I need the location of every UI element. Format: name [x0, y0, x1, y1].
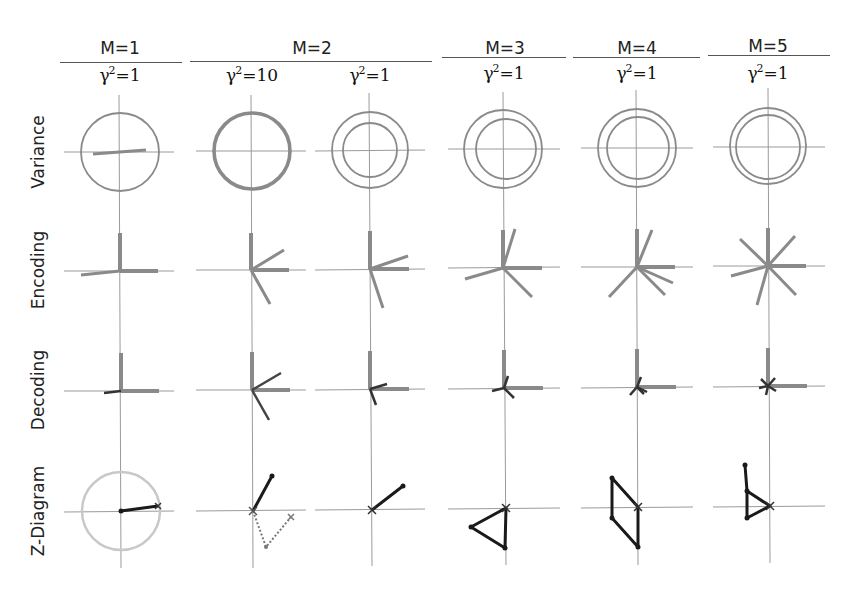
encoding-m3 — [465, 229, 542, 297]
decoding-m2-g10 — [252, 352, 290, 420]
decoding-m3 — [492, 350, 543, 398]
encoding-m2-g10 — [251, 233, 289, 304]
horizontal-axes — [64, 147, 825, 512]
decoding-row — [104, 348, 807, 420]
z-end-cross-icon — [288, 514, 294, 520]
z-diagram-m4 — [610, 476, 643, 550]
figure-grid: M=1 M=2 M=3 M=4 M=5 γ2=1 γ2=10 γ2=1 γ2=1… — [0, 0, 855, 592]
z-diagram-m3 — [469, 504, 511, 551]
encoding-m2-g1 — [370, 231, 409, 308]
decoding-m1 — [104, 353, 159, 393]
z-diagram-row — [82, 463, 774, 551]
decoding-m5 — [759, 348, 807, 395]
decoding-m2-g1 — [370, 351, 409, 405]
encoding-m4 — [609, 229, 675, 297]
z-diagram-m2-g10 — [249, 474, 294, 550]
diagram-canvas — [0, 0, 855, 592]
decoding-m4 — [630, 349, 676, 395]
encoding-m1 — [81, 233, 158, 275]
encoding-row — [81, 228, 806, 308]
variance-row — [81, 108, 806, 191]
